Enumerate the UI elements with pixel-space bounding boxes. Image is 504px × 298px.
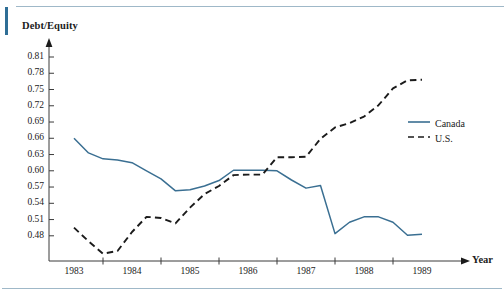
legend-item-canada: Canada (408, 113, 465, 128)
legend-label-us: U.S. (430, 133, 453, 144)
legend-item-us: U.S. (408, 128, 465, 143)
chart-legend: Canada U.S. (408, 113, 465, 143)
plot-area (0, 0, 504, 298)
legend-swatch-canada (408, 117, 430, 127)
chart-figure: Debt/Equity Year 0.810.780.750.720.690.6… (0, 0, 504, 298)
legend-swatch-us (408, 132, 430, 142)
series-line-canada (74, 138, 422, 235)
y-axis-arrow (46, 38, 53, 47)
series-line-us (74, 80, 422, 254)
x-axis-arrow (461, 258, 470, 265)
